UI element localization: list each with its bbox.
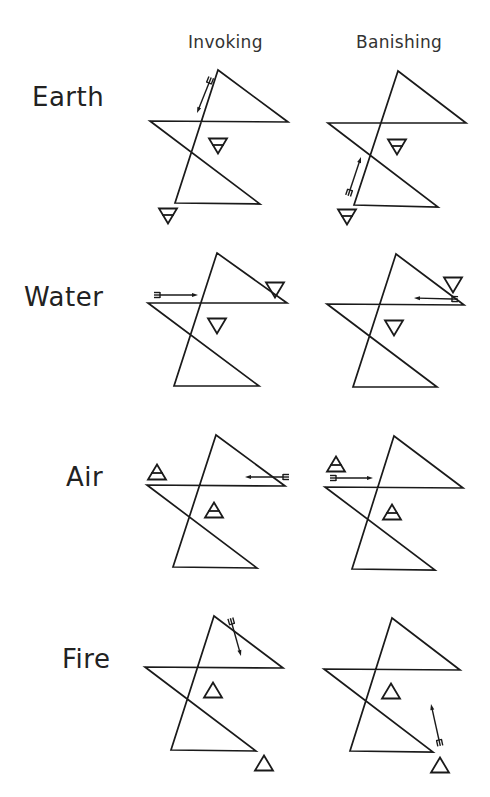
air-symbol-icon bbox=[205, 503, 223, 518]
pentagram-air-banishing bbox=[325, 436, 463, 570]
earth-symbol-start-icon bbox=[338, 210, 356, 225]
fire-symbol-icon bbox=[382, 684, 400, 699]
banishing-direction-arrow-icon bbox=[430, 704, 442, 746]
invoking-direction-arrow-icon bbox=[245, 474, 289, 480]
pentagram-water-banishing bbox=[327, 254, 464, 387]
air-symbol-start-icon bbox=[148, 465, 166, 480]
pentagram-earth-invoking bbox=[150, 70, 288, 224]
banishing-direction-arrow-icon bbox=[330, 475, 373, 481]
pentagram-water-invoking bbox=[148, 253, 287, 386]
pentagram-fire-banishing bbox=[324, 618, 460, 773]
water-symbol-start-icon bbox=[444, 278, 462, 293]
fire-symbol-start-icon bbox=[431, 758, 449, 773]
banishing-direction-arrow-icon bbox=[414, 296, 458, 302]
water-symbol-icon bbox=[208, 319, 226, 334]
air-symbol-icon bbox=[383, 505, 401, 520]
pentagram-earth-banishing bbox=[328, 71, 466, 225]
invoking-direction-arrow-icon bbox=[154, 292, 198, 298]
water-symbol-icon bbox=[385, 321, 403, 336]
earth-symbol-icon bbox=[388, 140, 406, 155]
pentagram-star-icon bbox=[150, 70, 288, 204]
pentagram-star-icon bbox=[147, 435, 285, 568]
fire-symbol-icon bbox=[204, 683, 222, 698]
fire-symbol-start-icon bbox=[255, 756, 273, 771]
pentagram-fire-invoking bbox=[145, 616, 283, 771]
pentagram-star-icon bbox=[148, 253, 287, 386]
earth-symbol-start-icon bbox=[159, 209, 177, 224]
pentagram-diagram bbox=[0, 0, 490, 797]
pentagram-star-icon bbox=[325, 436, 463, 570]
pentagram-air-invoking bbox=[147, 435, 289, 568]
air-symbol-start-icon bbox=[327, 457, 345, 472]
invoking-direction-arrow-icon bbox=[228, 618, 241, 656]
earth-symbol-icon bbox=[209, 139, 227, 154]
